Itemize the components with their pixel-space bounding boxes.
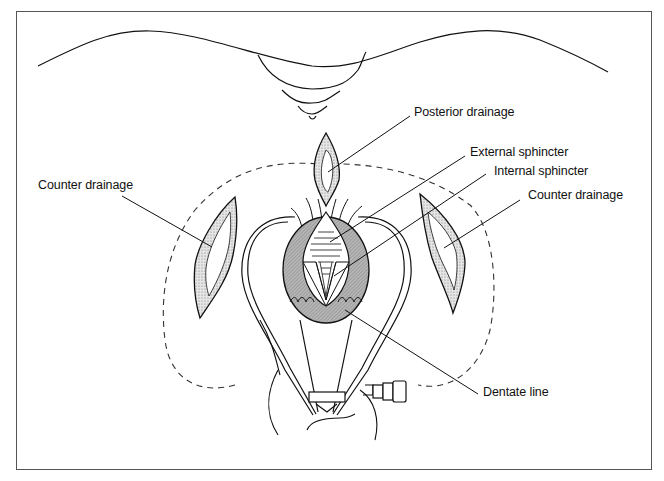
- sphincter-complex: [283, 212, 369, 323]
- right-counter-drainage-incision: [420, 194, 465, 313]
- label-dentate-line: Dentate line: [483, 385, 549, 399]
- posterior-drainage-incision: [314, 133, 339, 206]
- label-posterior-drainage: Posterior drainage: [414, 105, 514, 119]
- label-counter-drainage-left: Counter drainage: [38, 178, 133, 192]
- left-counter-drainage-incision: [194, 197, 236, 318]
- anatomy-illustration: [0, 0, 664, 481]
- label-counter-drainage-right: Counter drainage: [528, 188, 623, 202]
- lower-body-outline: [260, 320, 377, 440]
- label-external-sphincter: External sphincter: [470, 145, 568, 159]
- buttocks-outline: [38, 31, 608, 119]
- label-internal-sphincter: Internal sphincter: [494, 164, 588, 178]
